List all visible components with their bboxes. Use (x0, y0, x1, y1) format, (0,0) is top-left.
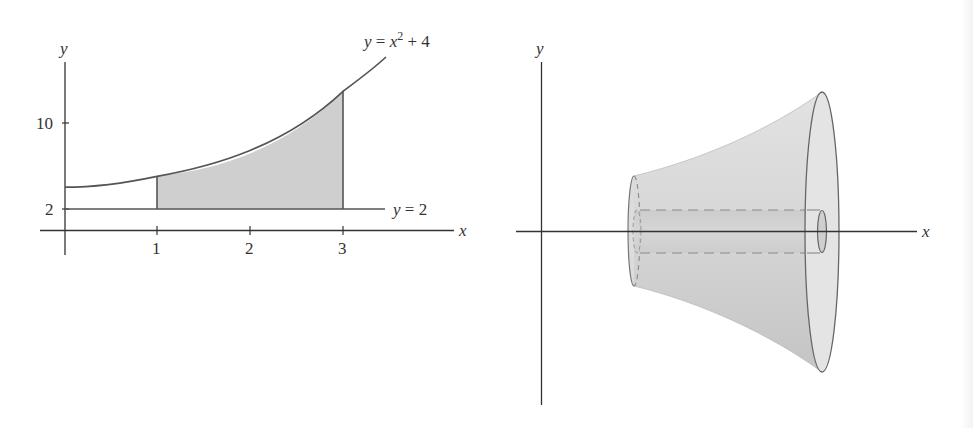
y-tick-2: 2 (45, 200, 54, 219)
figure-canvas: y x 10 2 1 2 3 y = x2 + 4 y = 2 (0, 0, 973, 428)
y-axis-label: y (58, 39, 68, 58)
y-axis-label-3d: y (534, 39, 544, 58)
y-tick-10: 10 (36, 114, 53, 133)
x-tick-1: 1 (152, 239, 161, 258)
curve-label-line: y = 2 (391, 200, 427, 219)
x-tick-3: 3 (338, 239, 347, 258)
x-axis-label-3d: x (921, 222, 930, 241)
page-edge-shadow (961, 0, 973, 428)
x-tick-2: 2 (245, 239, 254, 258)
left-graph: y x 10 2 1 2 3 y = x2 + 4 y = 2 (36, 29, 467, 258)
curve-label-parabola: y = x2 + 4 (362, 29, 430, 51)
x-axis-label: x (458, 221, 467, 240)
right-graph: y x (516, 39, 930, 405)
